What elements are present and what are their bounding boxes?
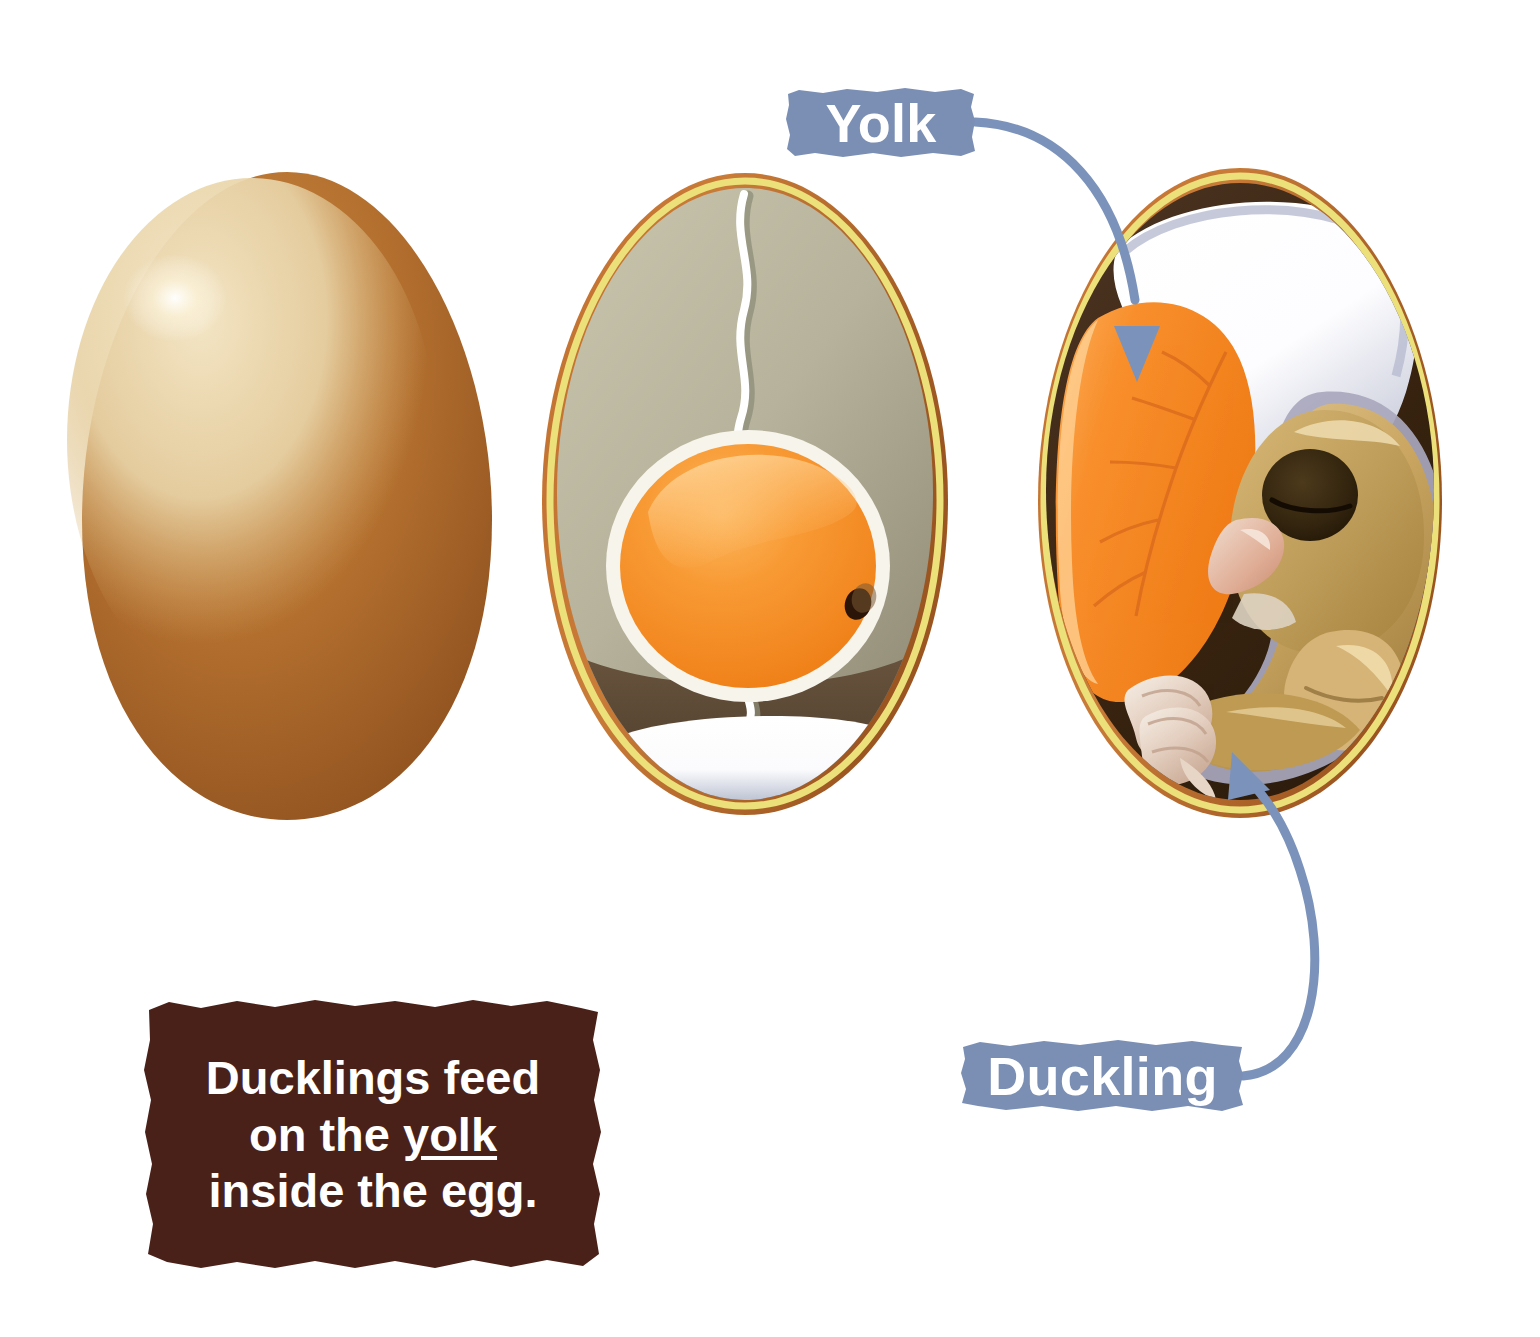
fact-line-2-prefix: on the bbox=[249, 1108, 403, 1161]
callout-duckling-label: Duckling bbox=[987, 1049, 1217, 1103]
whole-egg-specular bbox=[123, 254, 227, 342]
fact-line-3: inside the egg. bbox=[157, 1163, 589, 1219]
fact-line-2: on the yolk bbox=[157, 1107, 589, 1163]
embryo-egg-cross-section bbox=[1038, 168, 1446, 818]
unfertilised-egg-cross-section bbox=[542, 173, 948, 815]
whole-egg bbox=[67, 172, 492, 820]
callout-duckling[interactable]: Duckling bbox=[960, 1037, 1245, 1115]
duckling-arrow-line bbox=[1243, 788, 1315, 1076]
fact-line-1: Ducklings feed bbox=[157, 1050, 589, 1106]
callout-yolk-label: Yolk bbox=[825, 96, 936, 150]
callout-yolk[interactable]: Yolk bbox=[785, 85, 977, 160]
whole-egg-highlight bbox=[67, 178, 437, 702]
fact-box: Ducklings feed on the yolk inside the eg… bbox=[143, 996, 603, 1274]
fact-box-text: Ducklings feed on the yolk inside the eg… bbox=[143, 1050, 603, 1219]
diagram-canvas: Yolk Duckling Ducklings feed on the yolk… bbox=[0, 0, 1540, 1337]
fact-line-2-keyword: yolk bbox=[403, 1108, 497, 1161]
